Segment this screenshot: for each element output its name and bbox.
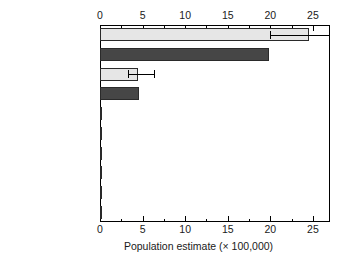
x-axis-tick-bottom [206,219,207,222]
bar [100,127,102,140]
x-axis-tick-label-bottom: 5 [140,224,146,235]
x-axis-tick-label-top: 20 [265,10,277,21]
x-axis-tick-label-bottom: 0 [97,224,103,235]
error-bar [128,74,154,75]
x-axis-tick-top [313,25,314,31]
x-axis-tick-bottom [292,219,293,222]
x-axis-tick-label-bottom: 15 [222,224,234,235]
x-axis-tick-bottom [185,216,186,222]
x-axis-tick-label-top: 25 [307,10,319,21]
x-axis-tick-label-top: 0 [97,10,103,21]
x-axis-tick-bottom [228,216,229,222]
x-axis-tick-label-bottom: 20 [265,224,277,235]
x-axis-title: Population estimate (× 100,000) [0,240,354,252]
bar [100,186,102,199]
population-bar-chart: 00551010151520202525ICELANDNORWAYFAEROE … [0,0,354,263]
bar [100,48,269,61]
x-axis-tick-bottom [121,219,122,222]
x-axis-tick-label-top: 10 [179,10,191,21]
x-axis-tick-bottom [249,219,250,222]
x-axis-tick-bottom [313,216,314,222]
x-axis-tick-label-bottom: 10 [179,224,191,235]
x-axis-tick-bottom [270,216,271,222]
bar [100,87,139,100]
error-bar-cap-low [270,31,271,39]
x-axis-tick-label-top: 5 [140,10,146,21]
x-axis-tick-bottom [164,219,165,222]
x-axis-tick-label-bottom: 25 [307,224,319,235]
x-axis-tick-bottom [143,216,144,222]
error-bar-cap-high [154,70,155,78]
bar [100,107,102,120]
bar [100,166,102,179]
bar [100,147,102,160]
x-axis-tick-label-top: 15 [222,10,234,21]
x-axis-title-text: Population estimate (× 100,000) [124,240,273,252]
bar [100,206,102,219]
error-bar-cap-low [128,70,129,78]
error-bar [270,35,330,36]
